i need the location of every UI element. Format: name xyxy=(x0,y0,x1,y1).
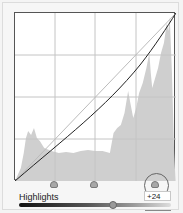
region-slider-thumb[interactable] xyxy=(109,201,117,209)
region-value-field[interactable]: +24 xyxy=(144,191,171,201)
histogram-curve-svg xyxy=(15,13,176,181)
value-underline xyxy=(145,210,171,211)
split-point-shadows-handle[interactable] xyxy=(50,181,58,188)
region-slider-track[interactable] xyxy=(19,203,171,207)
split-point-midtones-handle[interactable] xyxy=(90,181,98,188)
tone-curve-panel: Highlights +24 xyxy=(2,2,179,210)
region-label: Highlights xyxy=(19,192,59,202)
tone-curve-graph[interactable] xyxy=(14,12,175,180)
